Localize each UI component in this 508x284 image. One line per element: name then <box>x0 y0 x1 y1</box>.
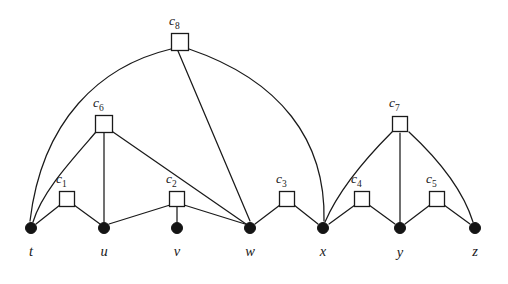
clause-label-c5: c5 <box>426 171 437 189</box>
variable-label-z: z <box>471 243 478 259</box>
variable-node-t <box>26 223 37 234</box>
clause-node-c3 <box>280 192 295 207</box>
clause-variable-graph: c1c2c3c4c5c6c7c8tuvwxyz <box>0 0 508 284</box>
edge-c8-x <box>189 49 324 221</box>
clause-node-c8 <box>172 34 189 51</box>
variable-node-v <box>172 223 183 234</box>
edge-c2-u <box>109 205 170 224</box>
variable-label-u: u <box>100 243 107 259</box>
variable-label-w: w <box>245 243 255 259</box>
variable-label-x: x <box>319 243 327 259</box>
clause-node-c5 <box>430 192 445 207</box>
label-layer: c1c2c3c4c5c6c7c8tuvwxyz <box>29 13 478 260</box>
clause-label-c3: c3 <box>276 171 287 189</box>
figure-container: c1c2c3c4c5c6c7c8tuvwxyz <box>0 0 508 284</box>
clause-node-c4 <box>355 192 370 207</box>
variable-node-w <box>245 223 256 234</box>
variable-node-x <box>318 223 329 234</box>
edge-c4-x <box>329 205 355 224</box>
edge-c8-t <box>30 49 171 221</box>
variable-node-z <box>470 223 481 234</box>
edge-c4-y <box>369 205 395 224</box>
clause-label-c7: c7 <box>389 95 400 113</box>
variable-label-y: y <box>395 244 404 260</box>
variable-node-u <box>99 223 110 234</box>
clause-label-c1: c1 <box>56 171 67 189</box>
variable-node-y <box>395 223 406 234</box>
clause-label-c8: c8 <box>169 13 180 31</box>
edge-c7-z <box>409 132 473 222</box>
edge-c6-t <box>33 132 96 222</box>
edge-c3-w <box>255 205 280 224</box>
edge-c1-u <box>74 205 100 224</box>
edge-layer <box>30 49 473 224</box>
edge-c3-x <box>294 205 318 224</box>
clause-node-c1 <box>60 192 75 207</box>
edge-c5-z <box>444 205 470 224</box>
clause-node-layer <box>60 34 445 207</box>
clause-node-c2 <box>170 192 185 207</box>
clause-label-c4: c4 <box>351 171 362 189</box>
edge-c6-w <box>113 132 246 224</box>
edge-c5-y <box>405 205 430 224</box>
clause-node-c7 <box>393 117 408 132</box>
clause-label-c2: c2 <box>166 171 177 189</box>
edge-c8-w <box>178 51 250 221</box>
variable-node-layer <box>26 223 481 234</box>
clause-label-c6: c6 <box>93 95 104 113</box>
variable-label-v: v <box>174 243 181 259</box>
variable-label-t: t <box>29 243 34 259</box>
clause-node-c6 <box>96 116 113 133</box>
edge-c1-t <box>36 205 60 224</box>
edge-c2-w <box>184 205 245 224</box>
edge-c7-x <box>325 132 392 222</box>
